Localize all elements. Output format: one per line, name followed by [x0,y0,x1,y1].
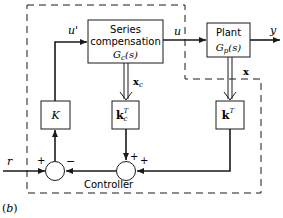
k-gain-block: K [41,101,70,129]
svg-text:K: K [50,109,60,122]
plant-label: Plant [216,27,241,38]
summing-junction-1 [46,162,65,181]
series-label: Series [110,24,141,35]
svg-text:kcT: kcT [116,107,130,123]
y-label: y [269,24,277,37]
block-diagram: Series compensation Gc(s) Plant Gp(s) K … [0,0,283,218]
kc-transpose-block: kcT [112,101,139,129]
sum1-minus-sign: − [66,155,75,168]
sum2-top-plus-sign: + [130,151,138,162]
sum2-right-plus-sign: + [140,155,148,166]
k-transpose-block: kT [216,101,244,129]
series-compensation-block: Series compensation Gc(s) [88,20,163,63]
sum1-plus-sign: + [37,155,45,166]
xc-vector-arrow [120,63,132,100]
kt-to-sum2-arrow [137,129,230,171]
u-prime-label: u' [68,24,78,37]
plant-block: Plant Gp(s) [207,23,250,57]
x-label: x [243,66,250,77]
summing-junction-2 [117,162,136,181]
figure-label: (b) [2,202,18,215]
xc-label: xc [133,76,143,89]
r-label: r [7,155,13,168]
u-label: u [174,25,181,38]
controller-label: Controller [84,179,134,190]
compensation-label: compensation [90,36,161,47]
u-prime-arrow [55,42,87,101]
